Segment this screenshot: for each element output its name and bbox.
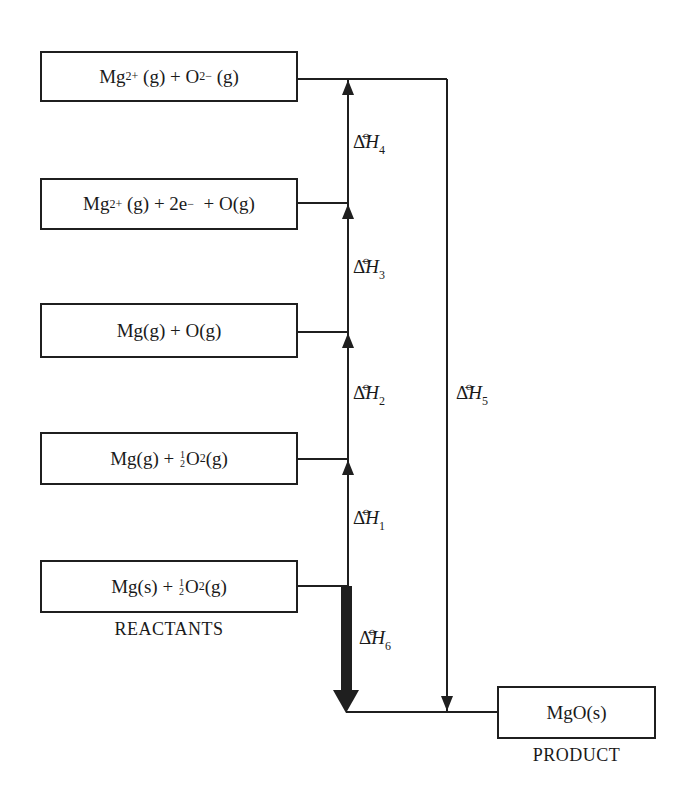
- enthalpy-label-dh6: ΔH⦵6: [359, 627, 401, 649]
- box-text: + O(g): [194, 193, 255, 215]
- box-mg2-o2-gas: Mg2+ (g) + O2− (g): [40, 51, 298, 102]
- reactants-caption: REACTANTS: [40, 619, 298, 640]
- box-product: MgO(s): [497, 686, 656, 739]
- enthalpy-label-dh1: ΔH⦵1: [353, 507, 395, 529]
- charge-superscript: 2−: [199, 69, 212, 84]
- enthalpy-label-dh5: ΔH⦵5: [456, 382, 498, 404]
- box-text: MgO(s): [546, 702, 606, 724]
- charge-superscript: 2+: [126, 69, 139, 84]
- enthalpy-label-dh2: ΔH⦵2: [353, 382, 395, 404]
- arrow-up-dh2: [342, 333, 354, 348]
- cycle-connectors: [0, 0, 691, 805]
- half-fraction: 12: [180, 450, 185, 468]
- box-text: Mg(g) + O(g): [117, 320, 222, 342]
- box-text: (g) + O: [138, 66, 199, 88]
- arrow-down-dh6: [333, 690, 359, 713]
- box-text: Mg(s) +: [111, 576, 178, 598]
- product-caption: PRODUCT: [497, 745, 656, 766]
- box-text: Mg: [83, 193, 109, 215]
- enthalpy-label-dh3: ΔH⦵3: [353, 256, 395, 278]
- box-reactants: Mg(s) + 12O2(g): [40, 560, 298, 613]
- charge-superscript: −: [187, 197, 194, 212]
- charge-superscript: 2+: [109, 197, 122, 212]
- box-text: O: [185, 576, 199, 598]
- box-text: (g): [206, 448, 228, 470]
- box-text: O: [186, 448, 200, 470]
- box-text: Mg: [99, 66, 125, 88]
- box-mg-o-gas: Mg(g) + O(g): [40, 303, 298, 358]
- arrow-down-dh5: [441, 696, 453, 711]
- arrow-up-dh3: [342, 204, 354, 219]
- box-text: (g): [212, 66, 239, 88]
- box-text: (g) + 2e: [122, 193, 187, 215]
- box-text: (g): [205, 576, 227, 598]
- enthalpy-label-dh4: ΔH⦵4: [353, 131, 395, 153]
- arrow-up-dh4: [342, 80, 354, 95]
- box-mg-gas-half-o2: Mg(g) + 12O2(g): [40, 432, 298, 485]
- arrow-up-dh1: [342, 460, 354, 475]
- half-fraction: 12: [179, 578, 184, 596]
- box-mg2-2e-o-gas: Mg2+ (g) + 2e− + O(g): [40, 178, 298, 230]
- box-text: Mg(g) +: [110, 448, 179, 470]
